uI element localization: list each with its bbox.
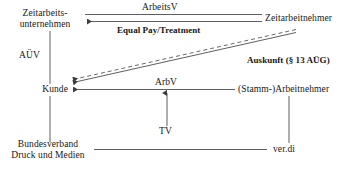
node-bundesverband[interactable]: Bundesverband Druck und Medien [2,139,94,160]
node-zeitarbeitnehmer-line1: Zeitarbeitnehmer [265,13,332,23]
edge-label-tv: TV [159,126,172,137]
edge-label-arbeitsv: ArbeitsV [142,2,178,13]
node-kunde[interactable]: Kunde [12,84,68,95]
edge-label-equal-pay: Equal Pay/Treatment [117,25,200,36]
node-zeitarbeitnehmer[interactable]: Zeitarbeitnehmer [265,13,351,24]
node-kunde-line1: Kunde [42,84,68,94]
edge-label-auskunft: Auskunft (§ 13 AÜG) [247,55,330,66]
node-zeitarbeitsunternehmen[interactable]: Zeitarbeits- unternehmen [6,8,84,29]
edge-label-arbv: ArbV [155,77,177,88]
node-bundesverband-line1: Bundesverband [18,139,78,149]
node-zeitarbeitsunternehmen-line2: unternehmen [6,19,84,30]
node-stamm-arbeitnehmer-line1: (Stamm-)Arbeitnehmer [238,84,329,94]
node-verdi-line1: ver.di [273,144,295,154]
node-stamm-arbeitnehmer[interactable]: (Stamm-)Arbeitnehmer [238,84,352,95]
diagram-canvas: Zeitarbeits- unternehmen Zeitarbeitnehme… [0,0,354,169]
edge-label-auev: AÜV [19,50,40,61]
node-verdi[interactable]: ver.di [273,144,323,155]
node-bundesverband-line2: Druck und Medien [2,150,94,161]
node-zeitarbeitsunternehmen-line1: Zeitarbeits- [23,8,68,18]
